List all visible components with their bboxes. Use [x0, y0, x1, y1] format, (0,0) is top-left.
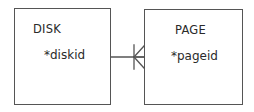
entity-attribute: *pageid	[171, 49, 218, 63]
entity-name: DISK	[33, 22, 61, 36]
crows-foot-icon	[134, 46, 144, 68]
entity-attribute: *diskid	[44, 48, 85, 62]
entity-name: PAGE	[175, 23, 206, 37]
entity-page: PAGE *pageid	[144, 9, 243, 105]
entity-disk: DISK *diskid	[14, 8, 111, 105]
